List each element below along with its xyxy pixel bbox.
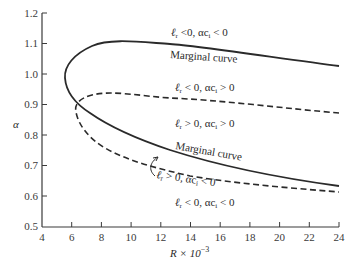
x-tick-label: 14 <box>185 231 197 243</box>
x-axis-label: R × 10−3 <box>169 245 209 259</box>
x-tick-labels: 4 6 8 10 12 14 16 18 20 22 24 <box>39 231 345 243</box>
x-tick-label: 4 <box>39 231 45 243</box>
y-axis-label: α <box>13 118 19 130</box>
x-tick-label: 8 <box>99 231 105 243</box>
y-tick-label: 0.8 <box>24 129 38 141</box>
x-ticks <box>72 222 339 227</box>
x-tick-label: 10 <box>126 231 138 243</box>
region-label-top: ℓr <0, αci < 0 <box>171 26 228 40</box>
x-tick-label: 12 <box>155 231 166 243</box>
x-tick-label: 22 <box>304 231 315 243</box>
marginal-curve-label-lower: Marginal curve <box>175 139 243 163</box>
region-label-between-curves: ℓr < 0, αci > 0 <box>175 81 235 95</box>
y-tick-label: 1.1 <box>24 37 38 49</box>
y-tick-label: 1.2 <box>24 7 38 19</box>
x-tick-label: 20 <box>274 231 286 243</box>
region-label-thin-band: ℓr > 0, αci < 0 <box>155 168 216 190</box>
region-label-bottom: ℓr < 0, αci < 0 <box>175 196 235 210</box>
y-tick-label: 0.7 <box>24 159 38 171</box>
marginal-curve-solid <box>65 41 339 186</box>
x-tick-label: 6 <box>69 231 75 243</box>
x-tick-label: 18 <box>244 231 256 243</box>
y-tick-label: 0.9 <box>24 98 38 110</box>
y-ticks <box>42 13 47 196</box>
y-tick-label: 0.6 <box>24 190 38 202</box>
x-tick-label: 16 <box>215 231 227 243</box>
y-tick-label: 1.0 <box>24 68 38 80</box>
x-tick-label: 24 <box>334 231 346 243</box>
stability-chart: 0.5 0.6 0.7 0.8 0.9 1.0 1.1 1.2 α 4 6 8 … <box>0 0 353 268</box>
region-label-inside-dashed: ℓr > 0, αci > 0 <box>175 117 235 131</box>
y-tick-label: 0.5 <box>24 220 38 232</box>
y-tick-labels: 0.5 0.6 0.7 0.8 0.9 1.0 1.1 1.2 <box>24 7 38 232</box>
